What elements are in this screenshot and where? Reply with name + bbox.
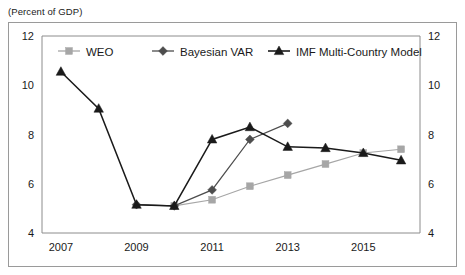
legend-label-1: Bayesian VAR — [180, 46, 253, 58]
marker-triangle — [245, 122, 255, 131]
x-axis-tick: 2011 — [200, 241, 224, 253]
x-axis-tick: 2015 — [351, 241, 375, 253]
series-weo — [171, 146, 405, 209]
x-axis-tick: 2013 — [275, 241, 299, 253]
chart-plot-area: 1212101088664420072009201120132015WEOBay… — [0, 0, 465, 275]
y-axis-tick-left: 10 — [22, 79, 34, 91]
marker-square — [398, 146, 405, 153]
series-line — [61, 72, 401, 206]
y-axis-tick-left: 4 — [28, 227, 34, 239]
y-axis-tick-right: 4 — [428, 227, 434, 239]
legend-label-0: WEO — [86, 46, 114, 58]
marker-square — [247, 183, 254, 190]
plot-border — [42, 36, 420, 233]
marker-diamond — [283, 119, 292, 128]
y-axis-tick-right: 12 — [428, 30, 440, 42]
marker-diamond — [159, 47, 168, 56]
marker-diamond — [246, 135, 255, 144]
legend-label-2: IMF Multi-Country Model — [296, 46, 422, 58]
chart-svg: 1212101088664420072009201120132015WEOBay… — [0, 0, 465, 275]
x-axis-tick: 2009 — [124, 241, 148, 253]
marker-triangle — [283, 142, 293, 151]
marker-square — [284, 172, 291, 179]
series-imf-multi-country-model — [56, 67, 406, 210]
marker-square — [322, 161, 329, 168]
x-axis-tick: 2007 — [49, 241, 73, 253]
marker-diamond — [208, 186, 217, 195]
marker-square — [66, 48, 73, 55]
y-axis-tick-right: 10 — [428, 79, 440, 91]
y-axis-tick-left: 8 — [28, 129, 34, 141]
y-axis-tick-right: 8 — [428, 129, 434, 141]
chart-legend: WEOBayesian VARIMF Multi-Country Model — [58, 46, 422, 58]
y-axis-tick-left: 12 — [22, 30, 34, 42]
marker-triangle — [56, 67, 66, 76]
y-axis-tick-left: 6 — [28, 178, 34, 190]
y-axis-tick-right: 6 — [428, 178, 434, 190]
marker-square — [209, 196, 216, 203]
